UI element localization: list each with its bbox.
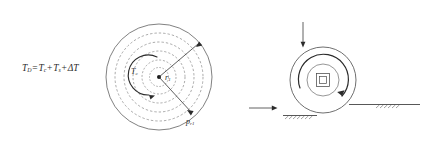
eq-plus-2: + <box>61 63 68 73</box>
left-diagram-graphics <box>0 0 214 152</box>
bottom-ground-support <box>283 116 317 120</box>
thermal-equation: TD=Tc+Ts+ΔT <box>22 64 78 74</box>
side-pressure-arrow <box>249 106 278 111</box>
top-pressure-arrow <box>301 22 306 48</box>
tc-sub: c <box>135 71 137 76</box>
eq-term3: ΔT <box>68 63 79 73</box>
rotation-arrow-ccw <box>128 55 157 100</box>
radius-arrow-r1 <box>159 41 202 77</box>
right-diagram: pr1 pr1 pr1=μr1pr1 <box>214 0 428 152</box>
wheel-inner-circle <box>307 64 339 96</box>
wheel-outer-circle <box>290 47 356 113</box>
right-diagram-graphics <box>214 0 428 152</box>
r1-sub: 1 <box>168 77 170 82</box>
label-pressure-pr1-left: pr1 <box>186 118 194 127</box>
left-diagram: TD=Tc+Ts+ΔT Tc r1 pr1 <box>0 0 214 152</box>
eq-lhs-sub: D <box>27 67 31 73</box>
label-contact-temperature: Tc <box>131 68 138 77</box>
right-ground-support <box>349 105 420 109</box>
rotation-arrow-cw <box>298 54 348 96</box>
label-radius-r1: r1 <box>165 74 171 83</box>
pr1-left-sub: r1 <box>190 121 194 126</box>
hub-inner-square <box>320 77 327 84</box>
figure-canvas: TD=Tc+Ts+ΔT Tc r1 pr1 <box>0 0 428 152</box>
hub-outer-square <box>317 74 330 87</box>
